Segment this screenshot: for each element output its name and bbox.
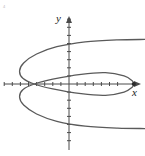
y-axis-label: y	[55, 12, 61, 24]
graph-canvas: 4 y x	[0, 0, 145, 156]
axes-group	[4, 16, 141, 150]
corner-mark: 4	[3, 4, 6, 9]
x-axis-label: x	[131, 86, 137, 98]
math-figure: 4 y x	[0, 0, 145, 156]
